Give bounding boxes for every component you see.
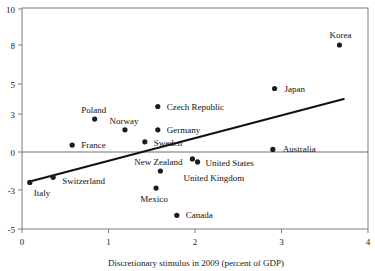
y-tick-label: 3 bbox=[11, 110, 16, 120]
data-point-label: Italy bbox=[34, 188, 51, 198]
y-tick-label: 8 bbox=[11, 41, 16, 51]
data-point bbox=[27, 180, 32, 185]
chart-canvas: -5-3035810 01234 ItalySwitzerlandFranceP… bbox=[0, 0, 375, 271]
data-point bbox=[270, 147, 275, 152]
data-point bbox=[51, 175, 56, 180]
data-point-label: Japan bbox=[285, 84, 306, 94]
x-tick-label: 3 bbox=[279, 237, 284, 247]
data-point-label: Germany bbox=[167, 125, 201, 135]
data-point bbox=[153, 186, 158, 191]
data-point-label: Switzerland bbox=[62, 176, 105, 186]
y-tick-label: 0 bbox=[11, 148, 16, 158]
data-point bbox=[190, 156, 195, 161]
data-point bbox=[337, 42, 342, 47]
data-point-label: Sweden bbox=[154, 138, 183, 148]
data-point bbox=[155, 127, 160, 132]
data-point-label: Poland bbox=[81, 105, 107, 115]
data-point bbox=[70, 142, 75, 147]
x-axis-title: Discretionary stimulus in 2009 (percent … bbox=[108, 258, 284, 268]
data-point-label: United States bbox=[205, 158, 254, 168]
data-point-label: France bbox=[81, 140, 106, 150]
data-point-label: Canada bbox=[186, 210, 213, 220]
data-point-label: Korea bbox=[329, 30, 351, 40]
data-point-label: Czech Republic bbox=[167, 102, 224, 112]
data-point bbox=[195, 159, 200, 164]
x-tick-label: 2 bbox=[193, 237, 198, 247]
data-point-label: Norway bbox=[109, 116, 138, 126]
data-point-label: United Kingdom bbox=[184, 173, 245, 183]
data-point bbox=[155, 104, 160, 109]
y-tick-label: 10 bbox=[6, 5, 16, 15]
y-tick-label: -3 bbox=[8, 186, 16, 196]
data-point bbox=[174, 213, 179, 218]
chart-background bbox=[0, 0, 375, 271]
data-point bbox=[272, 86, 277, 91]
data-point bbox=[142, 139, 147, 144]
data-point bbox=[158, 168, 163, 173]
data-point bbox=[92, 116, 97, 121]
data-point-label: Mexico bbox=[140, 194, 168, 204]
data-point-label: New Zealand bbox=[134, 157, 183, 167]
x-tick-label: 4 bbox=[366, 237, 371, 247]
y-tick-label: -5 bbox=[8, 225, 16, 235]
x-tick-label: 0 bbox=[20, 237, 25, 247]
scatter-chart: -5-3035810 01234 ItalySwitzerlandFranceP… bbox=[0, 0, 375, 271]
data-point bbox=[122, 127, 127, 132]
x-tick-label: 1 bbox=[106, 237, 111, 247]
data-point-label: Australia bbox=[283, 144, 316, 154]
y-tick-label: 5 bbox=[11, 80, 16, 90]
